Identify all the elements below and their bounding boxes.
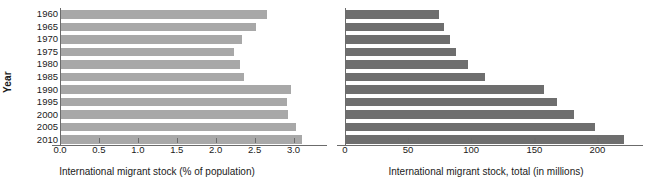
x-tick bbox=[99, 138, 100, 143]
bar-1995 bbox=[61, 98, 287, 107]
plot-area-right bbox=[345, 8, 629, 146]
y-tick-label-2005: 2005 bbox=[24, 122, 58, 132]
bar-1960 bbox=[346, 10, 439, 19]
x-tick bbox=[60, 138, 61, 143]
dual-bar-chart-figure: Year 19601965197019751980198519901995200… bbox=[0, 0, 646, 187]
y-axis-tick-labels-left: 1960196519701975198019851990199520002005… bbox=[20, 0, 58, 187]
bar-1985 bbox=[61, 73, 244, 82]
x-tick-label: 1.5 bbox=[170, 144, 183, 155]
x-tick-label: 1.0 bbox=[131, 144, 144, 155]
x-tick bbox=[216, 138, 217, 143]
bar-2000 bbox=[61, 110, 288, 119]
x-tick bbox=[345, 138, 346, 143]
y-tick-label-1975: 1975 bbox=[24, 47, 58, 57]
x-tick-label: 150 bbox=[526, 144, 542, 155]
x-tick-label: 2.0 bbox=[209, 144, 222, 155]
x-axis-ticks-left: 0.00.51.01.52.02.53.0 bbox=[60, 138, 313, 162]
bar-2000 bbox=[346, 110, 574, 119]
y-tick-label-1965: 1965 bbox=[24, 22, 58, 32]
bar-2005 bbox=[346, 123, 595, 132]
plot-area-left bbox=[60, 8, 313, 146]
bar-1990 bbox=[61, 85, 291, 94]
y-tick-label-1970: 1970 bbox=[24, 34, 58, 44]
x-tick-label: 50 bbox=[403, 144, 414, 155]
x-tick-label: 200 bbox=[590, 144, 606, 155]
y-axis-title: Year bbox=[2, 52, 13, 112]
chart-panel-left: Year 19601965197019751980198519901995200… bbox=[0, 0, 326, 187]
x-tick bbox=[471, 138, 472, 143]
x-tick bbox=[138, 138, 139, 143]
bar-1965 bbox=[61, 23, 256, 32]
x-tick bbox=[294, 138, 295, 143]
y-tick-label-1985: 1985 bbox=[24, 72, 58, 82]
x-tick bbox=[597, 138, 598, 143]
bar-1980 bbox=[61, 60, 240, 69]
x-axis-title-right: International migrant stock, total (in m… bbox=[326, 166, 646, 177]
x-tick bbox=[177, 138, 178, 143]
y-tick-label-1995: 1995 bbox=[24, 97, 58, 107]
bar-1975 bbox=[346, 48, 456, 57]
y-tick-label-2000: 2000 bbox=[24, 110, 58, 120]
x-tick-label: 2.5 bbox=[248, 144, 261, 155]
bar-2005 bbox=[61, 123, 296, 132]
y-tick-label-2010: 2010 bbox=[24, 135, 58, 145]
bar-1990 bbox=[346, 85, 544, 94]
x-axis-ticks-right: 050100150200 bbox=[345, 138, 629, 162]
x-tick-label: 0.0 bbox=[53, 144, 66, 155]
x-axis-title-left: International migrant stock (% of popula… bbox=[0, 166, 320, 177]
bar-1985 bbox=[346, 73, 485, 82]
bar-1975 bbox=[61, 48, 234, 57]
x-tick-label: 0 bbox=[342, 144, 347, 155]
x-tick bbox=[408, 138, 409, 143]
chart-panel-right: 050100150200 International migrant stock… bbox=[326, 0, 646, 187]
bar-1970 bbox=[61, 35, 242, 44]
y-tick-label-1980: 1980 bbox=[24, 59, 58, 69]
bar-1970 bbox=[346, 35, 450, 44]
y-tick-label-1960: 1960 bbox=[24, 9, 58, 19]
y-tick-label-1990: 1990 bbox=[24, 85, 58, 95]
bar-1980 bbox=[346, 60, 468, 69]
x-tick-label: 0.5 bbox=[92, 144, 105, 155]
x-tick-label: 3.0 bbox=[287, 144, 300, 155]
bar-1960 bbox=[61, 10, 267, 19]
bar-1965 bbox=[346, 23, 444, 32]
bar-1995 bbox=[346, 98, 557, 107]
x-tick bbox=[255, 138, 256, 143]
x-tick bbox=[534, 138, 535, 143]
x-tick-label: 100 bbox=[463, 144, 479, 155]
